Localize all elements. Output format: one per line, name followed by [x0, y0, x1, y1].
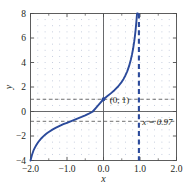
grid-dot: [147, 142, 148, 143]
grid-dot: [81, 148, 82, 149]
grid-dot: [96, 31, 97, 32]
grid-dot: [147, 62, 148, 63]
grid-dot: [125, 148, 126, 149]
grid-dot: [118, 142, 119, 143]
grid-dot: [74, 123, 75, 124]
marked-point: [102, 97, 106, 101]
y-axis-title: y: [3, 84, 14, 90]
grid-dot: [162, 31, 163, 32]
grid-dot: [96, 93, 97, 94]
grid-dot: [59, 93, 60, 94]
grid-dot: [132, 87, 133, 88]
grid-dot: [154, 25, 155, 26]
grid-dot: [96, 74, 97, 75]
grid-dot: [110, 136, 111, 137]
grid-dot: [81, 123, 82, 124]
grid-dot: [169, 80, 170, 81]
grid-dot: [147, 68, 148, 69]
grid-dot: [74, 25, 75, 26]
grid-dot: [67, 68, 68, 69]
grid-dot: [118, 123, 119, 124]
grid-dot: [154, 62, 155, 63]
grid-dot: [67, 19, 68, 20]
grid-dot: [118, 56, 119, 57]
x-tick-label: 1.0: [134, 164, 146, 174]
grid-dot: [45, 62, 46, 63]
grid-dot: [59, 105, 60, 106]
grid-dot: [89, 38, 90, 39]
grid-dot: [81, 136, 82, 137]
grid-dot: [132, 99, 133, 100]
grid-dot: [110, 148, 111, 149]
grid-dot: [169, 142, 170, 143]
grid-dot: [81, 25, 82, 26]
grid-dot: [52, 80, 53, 81]
grid-dot: [59, 68, 60, 69]
grid-dot: [45, 44, 46, 45]
grid-dot: [132, 148, 133, 149]
grid-dot: [59, 56, 60, 57]
grid-dot: [74, 93, 75, 94]
grid-dot: [125, 68, 126, 69]
grid-dot: [132, 93, 133, 94]
grid-dot: [74, 148, 75, 149]
grid-dot: [74, 50, 75, 51]
grid-dot: [110, 129, 111, 130]
grid-dot: [37, 105, 38, 106]
grid-dot: [154, 80, 155, 81]
grid-dot: [169, 99, 170, 100]
grid-dot: [125, 62, 126, 63]
grid-dot: [169, 19, 170, 20]
grid-dot: [81, 93, 82, 94]
grid-dot: [96, 62, 97, 63]
grid-dot: [132, 123, 133, 124]
grid-dot: [96, 148, 97, 149]
x-tick-label: −1.0: [58, 164, 75, 174]
grid-dot: [59, 136, 60, 137]
grid-dot: [74, 68, 75, 69]
grid-dot: [169, 31, 170, 32]
grid-dot: [118, 19, 119, 20]
grid-dot: [67, 105, 68, 106]
y-tick-label: 6: [21, 33, 26, 43]
grid-dot: [52, 68, 53, 69]
grid-dot: [45, 38, 46, 39]
chart-plot: −2.0−1.00.01.02.0−4−202468(0, 1)x = 0.97…: [0, 0, 194, 189]
grid-dot: [110, 50, 111, 51]
grid-dot: [118, 68, 119, 69]
grid-dot: [118, 129, 119, 130]
grid-dot: [89, 50, 90, 51]
grid-dot: [67, 142, 68, 143]
grid-dot: [132, 68, 133, 69]
grid-dot: [59, 44, 60, 45]
grid-dot: [74, 31, 75, 32]
grid-dot: [154, 31, 155, 32]
grid-dot: [169, 148, 170, 149]
grid-dot: [81, 68, 82, 69]
grid-dot: [110, 56, 111, 57]
grid-dot: [154, 148, 155, 149]
grid-dot: [169, 105, 170, 106]
grid-dot: [147, 38, 148, 39]
grid-dot: [169, 68, 170, 69]
grid-dot: [59, 62, 60, 63]
grid-dot: [81, 56, 82, 57]
grid-dot: [37, 154, 38, 155]
grid-dot: [169, 50, 170, 51]
grid-dot: [52, 62, 53, 63]
grid-dot: [110, 154, 111, 155]
grid-dot: [37, 25, 38, 26]
grid-dot: [52, 123, 53, 124]
grid-dot: [59, 25, 60, 26]
grid-dot: [74, 80, 75, 81]
grid-dot: [81, 154, 82, 155]
grid-dot: [125, 87, 126, 88]
grid-dot: [154, 87, 155, 88]
grid-dot: [132, 117, 133, 118]
y-tick-label: −2: [16, 131, 26, 141]
grid-dot: [162, 56, 163, 57]
grid-dot: [147, 56, 148, 57]
grid-dot: [81, 80, 82, 81]
grid-dot: [45, 50, 46, 51]
y-tick-label: 2: [21, 82, 26, 92]
